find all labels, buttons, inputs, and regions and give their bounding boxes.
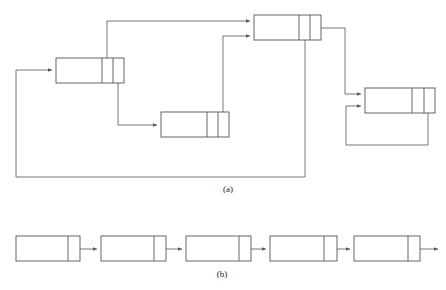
node-node-a1	[254, 15, 321, 40]
node-node-b1	[16, 236, 80, 261]
node-outline	[161, 112, 229, 137]
node-node-a2	[56, 58, 124, 83]
node-node-b3	[186, 236, 251, 261]
edge-edge-a2-to-a1	[107, 21, 250, 58]
figure-root: (a) (b)	[0, 0, 446, 290]
node-outline	[354, 236, 420, 261]
node-outline	[270, 236, 337, 261]
node-outline	[254, 15, 321, 40]
node-node-b2	[101, 236, 166, 261]
panel-b: (b)	[16, 236, 438, 279]
node-outline	[56, 58, 124, 83]
edge-edge-a3-to-a1	[223, 36, 250, 112]
node-node-b5	[354, 236, 420, 261]
panel-a-label: (a)	[223, 184, 233, 194]
node-outline	[16, 236, 80, 261]
panel-a: (a)	[16, 15, 435, 194]
edge-edge-a1-to-a4	[321, 28, 361, 94]
node-node-a4	[365, 88, 435, 113]
node-outline	[365, 88, 435, 113]
panel-b-label: (b)	[217, 269, 228, 279]
linked-structure-diagram: (a) (b)	[0, 0, 446, 290]
node-outline	[186, 236, 251, 261]
node-node-b4	[270, 236, 337, 261]
edge-edge-a2-to-a3	[118, 83, 157, 125]
node-node-a3	[161, 112, 229, 137]
node-outline	[101, 236, 166, 261]
